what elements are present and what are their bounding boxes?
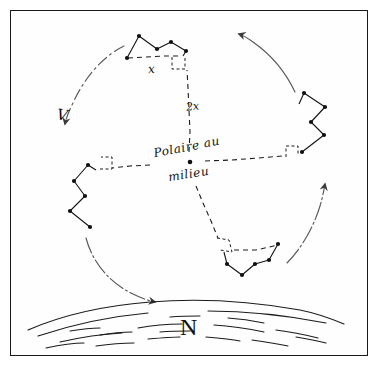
radial-spokes xyxy=(112,56,282,238)
stars-right xyxy=(300,91,327,154)
star-dot xyxy=(169,40,173,44)
spoke-to-top-cluster xyxy=(187,70,190,152)
star-dot xyxy=(309,120,313,124)
star-dot xyxy=(267,258,271,262)
rotation-arrow-lower-right xyxy=(287,184,325,263)
tick-left xyxy=(100,157,112,169)
star-dot xyxy=(125,56,129,60)
rotation-arrow-upper-left xyxy=(65,46,124,124)
rotation-arrow-upper-right xyxy=(239,34,295,92)
star-dot xyxy=(240,273,244,277)
star-dot xyxy=(86,163,90,167)
rotation-arrow-lower-left xyxy=(86,238,155,302)
star-dot xyxy=(184,49,188,53)
tick-right xyxy=(286,146,298,157)
horizon-landscape xyxy=(28,300,344,348)
star-dot xyxy=(225,262,229,266)
polaris-star-dot xyxy=(188,160,193,165)
star-dot xyxy=(83,194,87,198)
star-dot xyxy=(323,105,327,109)
stars-bottom xyxy=(225,242,280,277)
spoke-to-left-cluster xyxy=(112,165,150,168)
star-chart-canvas xyxy=(0,0,380,368)
star-dot xyxy=(137,34,141,38)
star-dot xyxy=(155,47,159,51)
tick-bottom xyxy=(217,238,232,252)
star-dot xyxy=(300,150,304,154)
figure-page: x 2x Polaire au milieu N V xyxy=(0,0,380,368)
dipper-cluster-right xyxy=(299,91,327,154)
rotation-arrows xyxy=(65,34,325,302)
spoke-baseline-x xyxy=(128,56,178,58)
spoke-to-bottom-cluster xyxy=(196,186,218,238)
dipper-cluster-bottom xyxy=(224,242,280,277)
star-dot xyxy=(302,91,306,95)
spoke-to-right-cluster xyxy=(205,156,282,161)
star-dot xyxy=(68,209,72,213)
star-dot xyxy=(72,179,76,183)
star-dot xyxy=(276,242,280,246)
tick-top xyxy=(172,57,185,69)
star-dot xyxy=(88,225,92,229)
dipper-cluster-left xyxy=(68,163,96,229)
star-dot xyxy=(253,262,257,266)
right-angle-ticks xyxy=(100,57,298,252)
star-dot xyxy=(322,133,326,137)
